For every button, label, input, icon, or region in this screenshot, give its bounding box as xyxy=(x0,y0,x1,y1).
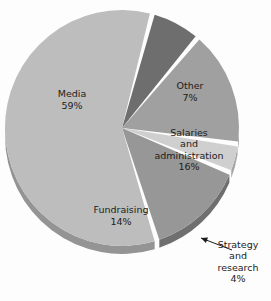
label-line: 59% xyxy=(61,99,82,110)
label-line: Salaries xyxy=(170,126,208,137)
callout-arrowhead-icon xyxy=(201,238,208,243)
pie-slice-label-4: Media59% xyxy=(58,88,87,111)
label-line: 4% xyxy=(230,273,245,284)
label-line: Fundraising xyxy=(93,204,148,215)
pie-chart-figure: Other7%Salariesandadministration16%Fundr… xyxy=(0,0,271,301)
label-line: 7% xyxy=(182,91,197,102)
label-line: administration xyxy=(154,149,223,160)
pie-callout-label-2: Strategyandresearch4% xyxy=(217,238,258,283)
label-line: and xyxy=(229,250,247,261)
label-line: 14% xyxy=(110,215,131,226)
pie-callout-group: Strategyandresearch4% xyxy=(201,238,259,284)
label-line: research xyxy=(217,261,258,272)
label-line: Strategy xyxy=(218,238,259,249)
label-line: 16% xyxy=(178,161,199,172)
label-line: Media xyxy=(58,88,87,99)
label-line: and xyxy=(180,138,198,149)
pie-chart-canvas: Other7%Salariesandadministration16%Fundr… xyxy=(0,0,271,301)
label-line: Other xyxy=(177,80,204,91)
